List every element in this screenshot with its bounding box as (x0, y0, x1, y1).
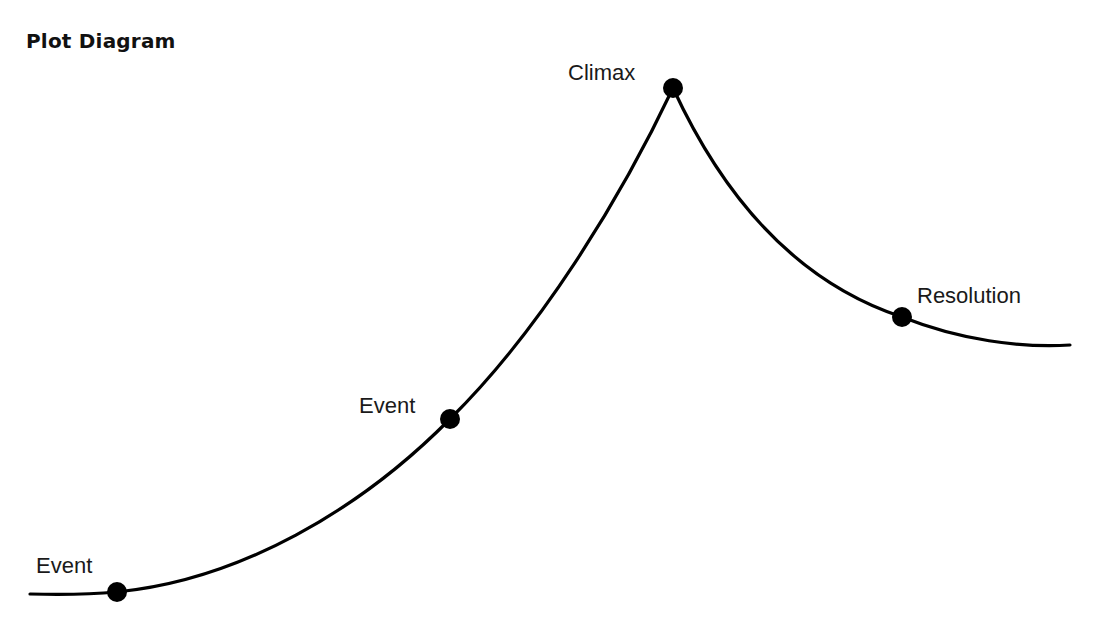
event-dot-2 (440, 409, 460, 429)
event-label-1: Event (36, 553, 92, 578)
event-dot-1 (107, 582, 127, 602)
resolution-label: Resolution (917, 283, 1021, 308)
climax-label: Climax (568, 60, 635, 85)
resolution-dot (892, 307, 912, 327)
plot-curve (30, 88, 1070, 594)
climax-dot (663, 78, 683, 98)
plot-diagram: Event Event Climax Resolution (0, 0, 1093, 633)
event-label-2: Event (359, 393, 415, 418)
